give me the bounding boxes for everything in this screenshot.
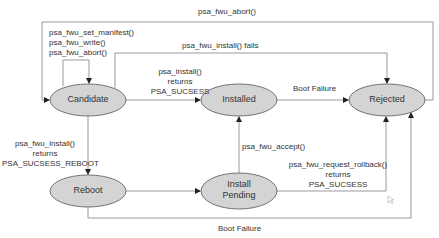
label-install-reboot: psa_fwu_install() returns PSA_SUCSESS_RE… <box>2 139 88 169</box>
state-install-pending-line1: Install <box>201 179 277 190</box>
label-install-success-line1: psa_install() <box>140 67 220 77</box>
label-install-success: psa_install() returns PSA_SUCSESS <box>140 67 220 97</box>
label-install-reboot-line2: returns <box>2 149 88 159</box>
label-installed-boot-failure: Boot Failure <box>293 84 336 94</box>
label-accept: psa_fwu_accept() <box>242 142 305 152</box>
label-install-success-line3: PSA_SUCSESS <box>140 87 220 97</box>
label-install-fails: psa_fwu_install() fails <box>182 41 258 51</box>
label-install-reboot-line3: PSA_SUCSESS_REBOOT <box>2 159 88 169</box>
label-install-success-line2: returns <box>140 77 220 87</box>
state-install-pending-line2: Pending <box>201 190 277 201</box>
cursor-icon <box>388 196 394 204</box>
label-rollback-line2: returns <box>288 170 388 180</box>
label-rollback-line1: psa_fwu_request_rollback() <box>288 160 388 170</box>
label-rollback-line3: PSA_SUCSESS <box>288 180 388 190</box>
edge-self-loop <box>63 60 89 86</box>
state-candidate-label: Candidate <box>50 94 126 105</box>
label-self-loop-line1: psa_fwu_set_manifest() <box>49 28 134 38</box>
label-abort: psa_fwu_abort() <box>198 7 256 17</box>
label-self-loop-line2: psa_fwu_write() <box>49 38 134 48</box>
label-reboot-boot-failure: Boot Failure <box>218 224 261 234</box>
label-self-loop: psa_fwu_set_manifest() psa_fwu_write() p… <box>49 28 134 58</box>
label-install-reboot-line1: psa_fwu_install() <box>2 139 88 149</box>
state-rejected-label: Rejected <box>349 94 425 105</box>
label-self-loop-line3: psa_fwu_abort() <box>49 48 134 58</box>
state-install-pending-label: Install Pending <box>201 179 277 201</box>
state-reboot-label: Reboot <box>50 185 126 196</box>
label-rollback: psa_fwu_request_rollback() returns PSA_S… <box>288 160 388 190</box>
